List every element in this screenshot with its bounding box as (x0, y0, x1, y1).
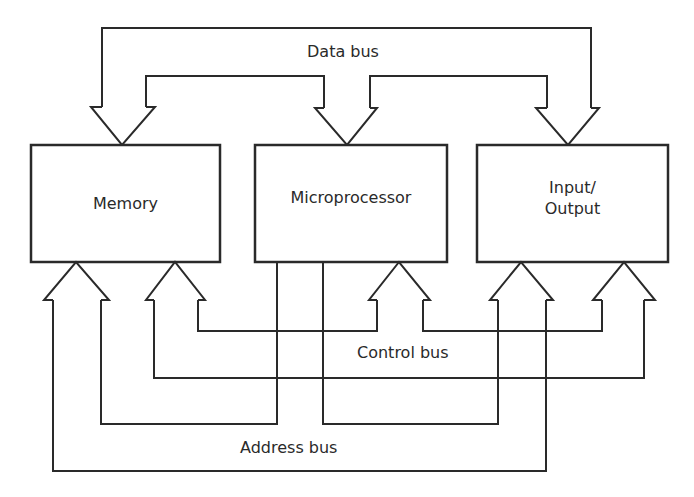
io-label-line2: Output (545, 198, 601, 219)
control-bus-arrow-io (593, 262, 655, 300)
data-bus-label: Data bus (307, 42, 379, 62)
io-label-line1: Input/ (549, 177, 596, 198)
control-bus-arrow-microprocessor (369, 262, 430, 300)
address-bus-arrow-io (490, 262, 553, 300)
memory-label: Memory (93, 194, 158, 214)
control-bus-inner-left-line (198, 300, 377, 331)
address-bus-inner-left-line (101, 262, 277, 424)
memory-label-container: Memory (31, 145, 220, 262)
control-bus-outer-line (154, 300, 644, 378)
control-bus-arrow-memory (146, 262, 205, 300)
address-bus-arrow-memory (44, 262, 109, 300)
address-bus-label: Address bus (240, 438, 337, 458)
data-bus-inner-left-line (146, 76, 324, 108)
microprocessor-label: Microprocessor (291, 188, 412, 208)
control-bus-label: Control bus (357, 343, 449, 363)
data-bus-inner-right-line (370, 76, 547, 108)
microprocessor-label-container: Microprocessor (255, 139, 447, 256)
io-label-container: Input/ Output (477, 139, 668, 256)
control-bus-inner-right-line (423, 300, 602, 331)
data-bus-arrow-memory (91, 107, 155, 145)
data-bus-outer-line (102, 28, 591, 108)
